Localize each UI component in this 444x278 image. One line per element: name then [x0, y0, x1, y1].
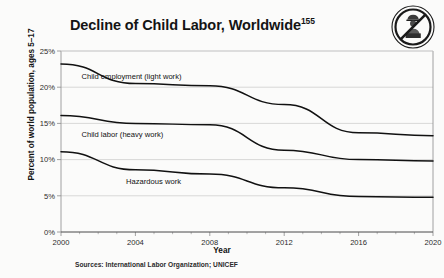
x-tick-label: 2020 — [425, 238, 442, 247]
x-tick-label: 2016 — [350, 238, 367, 247]
x-tick-label: 2012 — [276, 238, 293, 247]
x-tick-label: 2008 — [201, 238, 218, 247]
y-tick-label: 5% — [44, 192, 55, 201]
y-axis-tick-labels: 0%5%10%15%20%25% — [40, 47, 55, 237]
line-chart-plot: 0%5%10%15%20%25% 20002004200820122016202… — [0, 0, 444, 278]
y-tick-label: 20% — [40, 83, 55, 92]
y-tick-label: 25% — [40, 47, 55, 56]
x-tick-label: 2000 — [53, 238, 70, 247]
series-label: Child employment (light work) — [81, 72, 181, 81]
x-axis-tick-labels: 200020042008201220162020 — [53, 238, 442, 247]
series-label: Hazardous work — [126, 177, 181, 186]
y-tick-label: 15% — [40, 119, 55, 128]
series-label: Child labor (heavy work) — [81, 130, 163, 139]
series-line — [61, 152, 433, 198]
y-tick-label: 10% — [40, 155, 55, 164]
x-tick-label: 2004 — [127, 238, 144, 247]
chart-figure: Decline of Child Labor, Worldwide155 Per… — [0, 0, 444, 278]
y-tick-label: 0% — [44, 228, 55, 237]
